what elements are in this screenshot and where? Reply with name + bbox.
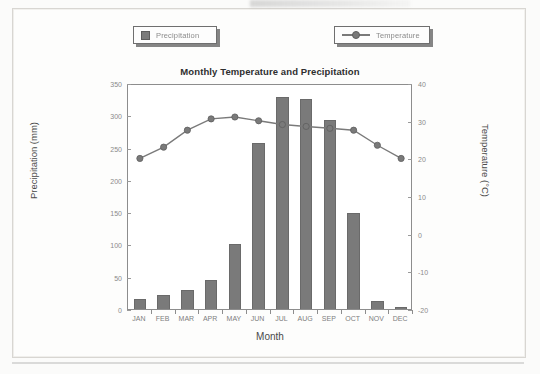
temperature-marker-feb [161, 144, 167, 150]
x-tick-jan: JAN [132, 315, 145, 322]
x-tick-mark [317, 310, 318, 314]
y-left-tick-200: 200 [110, 177, 122, 184]
x-tick-mark [246, 310, 247, 314]
x-tick-mark [222, 310, 223, 314]
y-axis-right-tick-labels: -20-10010203040 [418, 84, 444, 310]
y-left-tick-50: 50 [114, 274, 122, 281]
x-tick-aug: AUG [298, 315, 313, 322]
y-left-tick-mark [127, 278, 131, 279]
x-tick-mark [365, 310, 366, 314]
y-right-tick--10: -10 [418, 269, 428, 276]
y-axis-left-title: Precipitation (mm) [28, 81, 39, 241]
y-right-tick-mark [408, 122, 412, 123]
y-left-tick-350: 350 [110, 81, 122, 88]
x-tick-sep: SEP [322, 315, 336, 322]
x-axis-tick-labels: JANFEBMARAPRMAYJUNJULAUGSEPOCTNOVDEC [127, 315, 412, 327]
chart-plot-wrapper: 050100150200250300350 -20-10010203040 JA… [0, 0, 540, 374]
x-tick-mark [388, 310, 389, 314]
temperature-marker-jul [279, 121, 285, 127]
x-tick-feb: FEB [156, 315, 170, 322]
y-left-tick-100: 100 [110, 242, 122, 249]
y-left-tick-mark [127, 213, 131, 214]
x-tick-mark [293, 310, 294, 314]
y-right-tick--20: -20 [418, 307, 428, 314]
line-series-temperature [128, 85, 413, 311]
y-left-tick-mark [127, 116, 131, 117]
x-axis-title: Month [0, 331, 540, 342]
y-right-tick-0: 0 [418, 231, 422, 238]
x-tick-may: MAY [227, 315, 242, 322]
temperature-marker-mar [184, 127, 190, 133]
x-tick-apr: APR [203, 315, 217, 322]
x-tick-jul: JUL [275, 315, 287, 322]
y-right-tick-mark [408, 159, 412, 160]
x-tick-mar: MAR [179, 315, 195, 322]
temperature-marker-dec [398, 155, 404, 161]
y-right-tick-20: 20 [418, 156, 426, 163]
y-left-tick-0: 0 [118, 307, 122, 314]
y-left-tick-mark [127, 149, 131, 150]
x-tick-nov: NOV [369, 315, 384, 322]
y-left-tick-mark [127, 310, 131, 311]
x-tick-mark [151, 310, 152, 314]
x-tick-mark [175, 310, 176, 314]
temperature-marker-jun [256, 118, 262, 124]
y-right-tick-mark [408, 272, 412, 273]
y-left-tick-mark [127, 245, 131, 246]
y-right-tick-mark [408, 84, 412, 85]
x-tick-oct: OCT [345, 315, 360, 322]
temperature-marker-nov [374, 142, 380, 148]
y-left-tick-250: 250 [110, 145, 122, 152]
y-left-tick-mark [127, 181, 131, 182]
y-right-tick-40: 40 [418, 81, 426, 88]
y-right-tick-mark [408, 235, 412, 236]
y-right-tick-mark [408, 197, 412, 198]
temperature-marker-aug [303, 123, 309, 129]
temperature-line-path [140, 117, 401, 158]
plot-area [127, 84, 412, 310]
x-tick-mark [270, 310, 271, 314]
temperature-marker-sep [327, 125, 333, 131]
x-tick-jun: JUN [251, 315, 265, 322]
x-tick-mark [198, 310, 199, 314]
temperature-marker-jan [137, 155, 143, 161]
temperature-marker-may [232, 114, 238, 120]
y-left-tick-150: 150 [110, 210, 122, 217]
y-axis-right-title: Temperature (°C) [480, 81, 491, 241]
temperature-marker-apr [208, 116, 214, 122]
x-tick-mark [412, 310, 413, 314]
y-right-tick-30: 30 [418, 118, 426, 125]
y-axis-left-tick-labels: 050100150200250300350 [95, 84, 122, 310]
x-tick-mark [341, 310, 342, 314]
x-tick-dec: DEC [393, 315, 408, 322]
y-left-tick-mark [127, 84, 131, 85]
temperature-marker-oct [351, 127, 357, 133]
y-left-tick-300: 300 [110, 113, 122, 120]
y-right-tick-10: 10 [418, 194, 426, 201]
screenshot-page: Precipitation Temperature Monthly Temper… [0, 0, 540, 374]
